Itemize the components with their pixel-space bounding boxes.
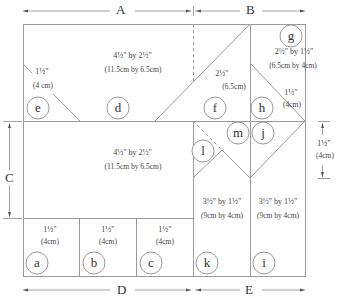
piece-d-size: 4½" by 2½" (95, 52, 170, 61)
piece-middle-size: 4½" by 2½" (95, 149, 170, 158)
piece-h-size: 1½" (281, 89, 301, 98)
dimension-label-d: D (117, 283, 126, 297)
letter-h: h (251, 97, 273, 119)
cutting-diagram: A B C D E 4½" by 2½" (11.5cm by 6.5cm) 1… (0, 0, 339, 298)
piece-c-size: 1½" (155, 226, 175, 235)
letter-k: k (196, 252, 218, 274)
dimension-label-c: C (5, 171, 14, 185)
letter-l: l (192, 140, 214, 162)
piece-f-metric: (6.5cm) (216, 83, 252, 91)
piece-i-metric: (9cm by 4cm) (250, 212, 306, 220)
letter-d: d (107, 97, 129, 119)
piece-g-metric: (6.5cm by 4cm) (262, 62, 324, 70)
letter-b: b (83, 252, 105, 274)
piece-h-metric: (4cm) (279, 101, 305, 109)
letter-i: i (253, 252, 275, 274)
piece-k-size: 3½" by 1½" (196, 198, 248, 207)
letter-c: c (140, 252, 162, 274)
piece-k-metric: (9cm by 4cm) (194, 212, 250, 220)
piece-c-metric: (4cm) (152, 238, 178, 246)
letter-m: m (227, 122, 249, 144)
piece-d-metric: (11.5cm by 6.5cm) (88, 66, 178, 74)
letter-j: j (252, 122, 274, 144)
piece-b-size: 1½" (98, 226, 118, 235)
piece-e-metric: (4 cm) (27, 82, 59, 90)
piece-e-size: 1½" (30, 68, 54, 77)
letter-e: e (27, 97, 49, 119)
dimension-label-e: E (245, 283, 253, 297)
letter-a: a (26, 252, 48, 274)
piece-g-size: 2½" by 1½" (266, 48, 322, 57)
letter-g: g (280, 25, 302, 47)
dimension-label-a: A (116, 3, 125, 17)
piece-f-size: 2½" (212, 70, 232, 79)
dimension-label-b: B (246, 3, 255, 17)
piece-a-metric: (4cm) (37, 238, 63, 246)
letter-f: f (204, 97, 226, 119)
right-dimension-size: 1½" (314, 140, 334, 149)
piece-i-size: 3½" by 1½" (252, 198, 304, 207)
piece-middle-metric: (11.5cm by 6.5cm) (88, 163, 178, 171)
right-dimension-metric: (4cm) (312, 152, 338, 160)
piece-b-metric: (4cm) (95, 238, 121, 246)
piece-a-size: 1½" (40, 226, 60, 235)
